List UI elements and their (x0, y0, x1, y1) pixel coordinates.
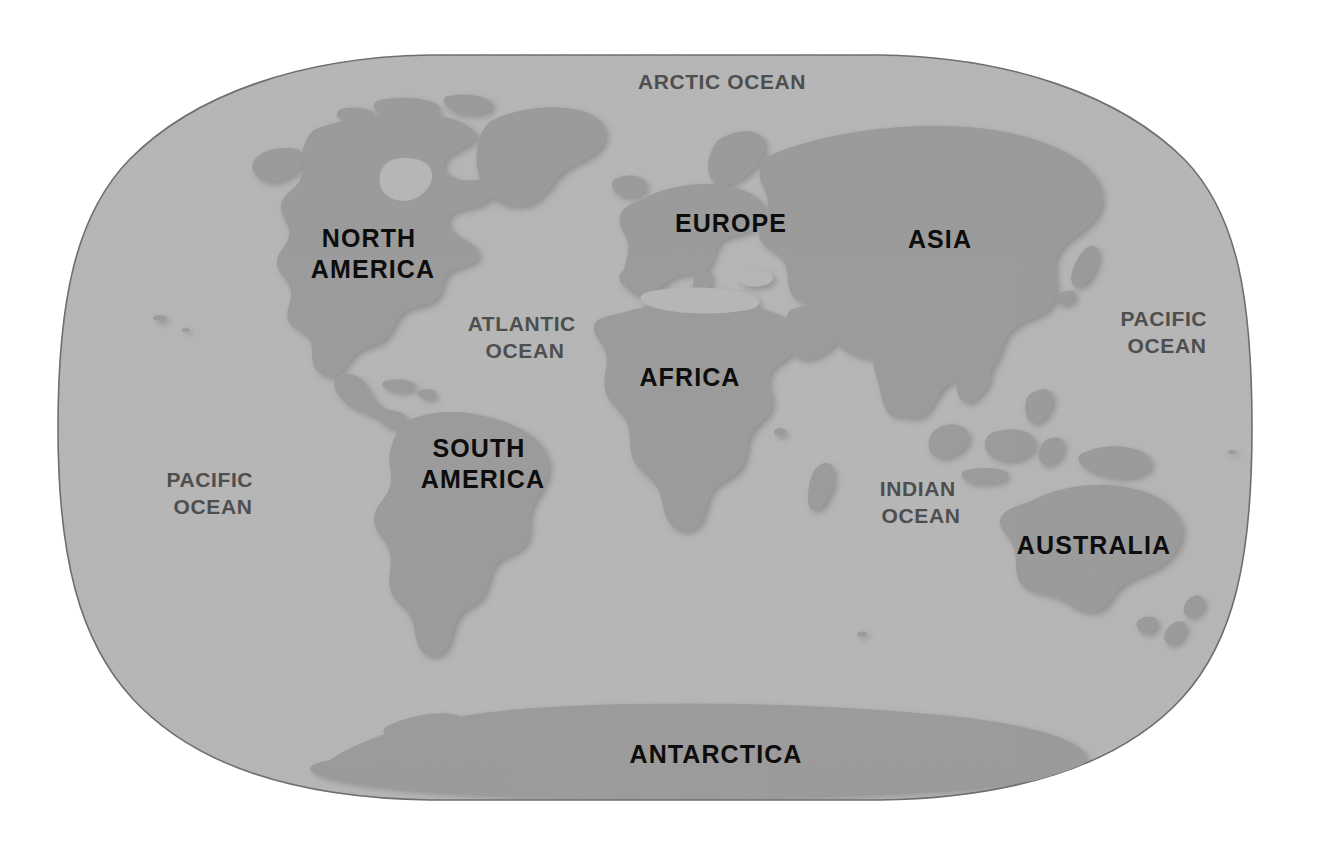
ocean-label-arctic-ocean: ARCTIC OCEAN (638, 70, 806, 93)
continent-label-europe: EUROPE (675, 209, 787, 237)
continent-label-africa: AFRICA (639, 363, 740, 391)
continent-label-australia: AUSTRALIA (1017, 531, 1171, 559)
world-map-container: ARCTIC OCEAN ATLANTIC OCEAN PACIFIC OCEA… (0, 0, 1323, 848)
world-map-svg[interactable]: ARCTIC OCEAN ATLANTIC OCEAN PACIFIC OCEA… (0, 0, 1323, 848)
paper-grain-overlay (0, 0, 1323, 848)
continent-label-antarctica: ANTARCTICA (629, 740, 802, 768)
continent-label-asia: ASIA (908, 225, 972, 253)
